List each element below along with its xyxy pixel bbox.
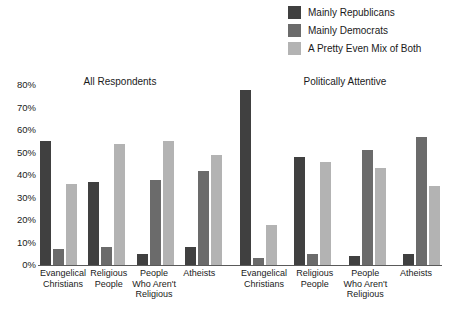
y-axis-tick-label: 50%: [17, 148, 36, 158]
bar: [114, 144, 125, 266]
x-axis-category-label: Evangelical Christians: [240, 268, 288, 300]
bar: [53, 249, 64, 265]
chart-plot-area: 0%10%20%30%40%50%60%70%80% All Responden…: [0, 70, 452, 312]
bar: [403, 254, 414, 265]
bar-group: [240, 70, 277, 265]
legend-swatch-even-mix: [288, 42, 301, 55]
y-axis-tick-label: 60%: [17, 125, 36, 135]
panel-politically-attentive: Politically Attentive Evangelical Christ…: [240, 70, 440, 265]
legend-label: Mainly Democrats: [308, 25, 388, 36]
y-axis-tick-label: 40%: [17, 170, 36, 180]
y-axis: 0%10%20%30%40%50%60%70%80%: [0, 70, 40, 266]
bar: [198, 171, 209, 266]
bar: [429, 186, 440, 265]
legend-item: A Pretty Even Mix of Both: [288, 42, 421, 55]
legend-item: Mainly Republicans: [288, 6, 421, 19]
x-axis-category-label: Atheists: [392, 268, 440, 300]
bar: [320, 162, 331, 266]
x-axis-category-label: People Who Aren't Religious: [341, 268, 389, 300]
bar: [185, 247, 196, 265]
x-axis-category-label: Religious People: [86, 268, 131, 300]
bar: [349, 256, 360, 265]
bar-group: [137, 70, 174, 265]
bar: [416, 137, 427, 265]
x-axis-category-label: Atheists: [177, 268, 222, 300]
legend-item: Mainly Democrats: [288, 24, 421, 37]
x-axis-category-label: People Who Aren't Religious: [131, 268, 176, 300]
bar: [375, 168, 386, 265]
bar-group: [40, 70, 77, 265]
y-axis-tick-label: 30%: [17, 193, 36, 203]
y-axis-tick-label: 0%: [22, 260, 36, 270]
bar-group: [185, 70, 222, 265]
bar: [211, 155, 222, 265]
bar: [137, 254, 148, 265]
bar: [240, 90, 251, 266]
bar: [294, 157, 305, 265]
bar: [101, 247, 112, 265]
bar-group: [88, 70, 125, 265]
bar: [253, 258, 264, 265]
y-axis-tick-label: 80%: [17, 80, 36, 90]
bar: [362, 150, 373, 265]
x-axis-line: [38, 265, 442, 266]
x-axis-labels: Evangelical ChristiansReligious PeoplePe…: [40, 268, 222, 300]
bar-groups: [40, 70, 222, 265]
bar-group: [403, 70, 440, 265]
bar-group: [294, 70, 331, 265]
panel-all-respondents: All Respondents Evangelical ChristiansRe…: [40, 70, 222, 265]
x-axis-labels: Evangelical ChristiansReligious PeoplePe…: [240, 268, 440, 300]
y-axis-tick-label: 20%: [17, 215, 36, 225]
legend-swatch-mainly-democrats: [288, 24, 301, 37]
bar: [66, 184, 77, 265]
chart-legend: Mainly Republicans Mainly Democrats A Pr…: [288, 6, 421, 55]
bar: [163, 141, 174, 265]
bar-group: [349, 70, 386, 265]
legend-label: Mainly Republicans: [308, 7, 395, 18]
x-axis-category-label: Evangelical Christians: [40, 268, 86, 300]
bar: [150, 180, 161, 266]
y-axis-tick-label: 10%: [17, 238, 36, 248]
bar: [266, 225, 277, 266]
bar: [40, 141, 51, 265]
x-axis-category-label: Religious People: [291, 268, 339, 300]
legend-label: A Pretty Even Mix of Both: [308, 43, 421, 54]
bar-groups: [240, 70, 440, 265]
legend-swatch-mainly-republicans: [288, 6, 301, 19]
bar: [88, 182, 99, 265]
bar: [307, 254, 318, 265]
y-axis-tick-label: 70%: [17, 103, 36, 113]
